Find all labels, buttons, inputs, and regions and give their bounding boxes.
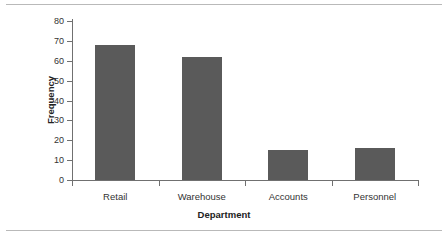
y-tick-label: 0 xyxy=(59,176,64,185)
top-divider-rule xyxy=(6,4,442,5)
x-tick-mark xyxy=(418,180,419,186)
x-tick-mark xyxy=(245,180,246,186)
x-tick-mark xyxy=(72,180,73,186)
y-axis-title: Frequency xyxy=(45,76,56,124)
x-category-label: Personnel xyxy=(353,191,396,202)
y-tick-mark xyxy=(67,120,72,121)
x-category-label: Accounts xyxy=(269,191,308,202)
y-tick-label: 10 xyxy=(54,156,64,165)
x-tick-mark xyxy=(159,180,160,186)
y-tick-label: 80 xyxy=(54,17,64,26)
x-category-label: Warehouse xyxy=(178,191,226,202)
x-axis-title: Department xyxy=(0,209,448,220)
y-tick-mark xyxy=(67,41,72,42)
y-tick-mark xyxy=(67,101,72,102)
y-tick-mark xyxy=(67,160,72,161)
y-tick-mark xyxy=(67,140,72,141)
y-tick-mark xyxy=(67,61,72,62)
bar xyxy=(182,57,222,180)
y-tick-label: 20 xyxy=(54,136,64,145)
x-category-label: Retail xyxy=(103,191,127,202)
bar xyxy=(268,150,308,180)
y-tick-mark xyxy=(67,21,72,22)
y-tick-mark xyxy=(67,81,72,82)
y-tick-label: 60 xyxy=(54,56,64,65)
bar xyxy=(355,148,395,180)
bar-chart-figure: 01020304050607080 RetailWarehouseAccount… xyxy=(0,0,448,241)
bar xyxy=(95,45,135,180)
bottom-divider-rule xyxy=(6,230,442,231)
x-tick-mark xyxy=(332,180,333,186)
plot-area: 01020304050607080 xyxy=(72,21,418,180)
y-tick-label: 70 xyxy=(54,36,64,45)
